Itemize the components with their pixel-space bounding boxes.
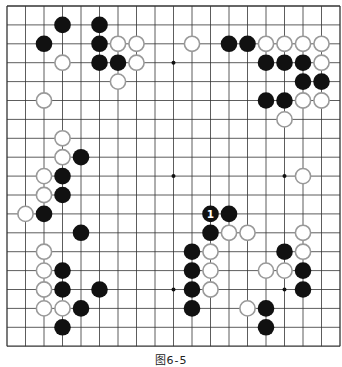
white-stone xyxy=(36,282,51,297)
white-stone xyxy=(55,301,70,316)
black-stone xyxy=(276,92,293,109)
black-stone xyxy=(54,17,71,34)
white-stone xyxy=(184,36,199,51)
white-stone xyxy=(36,187,51,202)
star-point xyxy=(172,174,176,178)
white-stone xyxy=(295,169,310,184)
black-stone xyxy=(295,73,312,90)
white-stone xyxy=(295,225,310,240)
black-stone xyxy=(258,92,275,109)
move-labels: 1 xyxy=(207,208,214,220)
white-stone xyxy=(203,244,218,259)
black-stone xyxy=(184,281,201,298)
black-stone xyxy=(73,300,90,317)
black-stone xyxy=(54,187,71,204)
white-stone xyxy=(295,36,310,51)
black-stone xyxy=(258,319,275,336)
white-stone xyxy=(314,55,329,70)
white-stone xyxy=(295,244,310,259)
white-stone xyxy=(203,282,218,297)
black-stone xyxy=(91,36,108,53)
white-stone xyxy=(277,36,292,51)
black-stone xyxy=(295,281,312,298)
white-stone xyxy=(110,74,125,89)
white-stone xyxy=(314,93,329,108)
black-stone xyxy=(221,206,238,223)
black-stone xyxy=(276,243,293,260)
black-stone xyxy=(36,36,53,53)
white-stone xyxy=(36,93,51,108)
white-stone xyxy=(240,301,255,316)
white-stone xyxy=(203,263,218,278)
white-stone xyxy=(36,263,51,278)
star-point xyxy=(283,288,287,292)
black-stone xyxy=(258,300,275,317)
white-stone xyxy=(258,263,273,278)
black-stone xyxy=(295,54,312,71)
white-stone xyxy=(277,263,292,278)
black-stone xyxy=(184,262,201,279)
black-stone xyxy=(276,54,293,71)
white-stone xyxy=(277,112,292,127)
white-stone xyxy=(55,55,70,70)
black-stone xyxy=(91,17,108,34)
black-stone xyxy=(258,54,275,71)
black-stone xyxy=(239,36,256,53)
white-stone xyxy=(110,36,125,51)
black-stone xyxy=(54,319,71,336)
white-stone xyxy=(129,36,144,51)
black-stone xyxy=(73,149,90,166)
star-point xyxy=(283,174,287,178)
black-stone xyxy=(110,54,127,71)
figure-caption: 图6-5 xyxy=(0,351,342,367)
white-stone xyxy=(18,206,33,221)
black-stone xyxy=(184,300,201,317)
move-number-label: 1 xyxy=(207,208,214,220)
white-stone xyxy=(55,131,70,146)
white-stone xyxy=(36,244,51,259)
black-stone xyxy=(54,262,71,279)
black-stone xyxy=(54,168,71,185)
black-stone xyxy=(73,225,90,242)
white-stone xyxy=(314,36,329,51)
white-stone xyxy=(36,169,51,184)
white-stone xyxy=(221,225,236,240)
black-stone xyxy=(184,243,201,260)
white-stone xyxy=(258,36,273,51)
white-stone xyxy=(36,301,51,316)
black-stone xyxy=(221,36,238,53)
black-stone xyxy=(36,206,53,223)
black-stone xyxy=(54,281,71,298)
black-stone xyxy=(91,54,108,71)
black-stone xyxy=(202,225,219,242)
white-stone xyxy=(240,225,255,240)
star-point xyxy=(172,288,176,292)
black-stone xyxy=(91,281,108,298)
white-stone xyxy=(129,55,144,70)
star-point xyxy=(172,61,176,65)
white-stone xyxy=(55,150,70,165)
black-stone xyxy=(313,73,330,90)
go-board: 1 xyxy=(0,0,342,352)
black-stone xyxy=(295,262,312,279)
white-stone xyxy=(295,93,310,108)
